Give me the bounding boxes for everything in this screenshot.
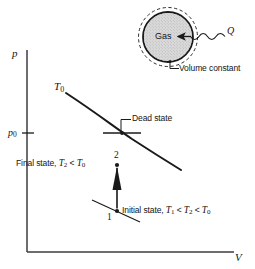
p-axis-label: p — [12, 48, 18, 59]
final-state-prefix: Final state, — [16, 158, 59, 168]
isotherm-T0-label: T0 — [54, 81, 64, 94]
dead-state-point — [120, 131, 124, 135]
heat-wavy-line — [191, 34, 226, 40]
initial-state-label: Initial state, T1 < T2 < T0 — [122, 206, 210, 216]
state-1-number-label: 1 — [107, 213, 112, 223]
initial-state-t0-sub: 0 — [207, 208, 210, 216]
process-arrowhead — [113, 167, 122, 191]
initial-state-relation-1: < — [174, 205, 183, 215]
gas-vessel-label: Gas — [155, 32, 172, 41]
final-state-label: Final state, T2 < T0 — [16, 159, 85, 169]
state-2-number-label: 2 — [114, 151, 119, 161]
heat-transfer-label: Q — [227, 26, 234, 36]
v-axis-label: V — [235, 252, 242, 263]
t0-subscript: 0 — [60, 85, 64, 94]
final-state-t0-sub: 0 — [82, 161, 85, 169]
volume-constant-label: Volume constant — [179, 64, 240, 73]
p0-subscript: 0 — [13, 130, 17, 139]
p0-tick-label: p0 — [8, 128, 17, 139]
state-2-point — [115, 163, 119, 167]
initial-state-relation-2: < — [192, 205, 201, 215]
figure-canvas — [0, 0, 255, 269]
dead-state-label: Dead state — [132, 114, 172, 123]
final-state-relation: < — [67, 158, 76, 168]
state-1-point — [115, 209, 119, 213]
initial-state-prefix: Initial state, — [122, 205, 166, 215]
pv-diagram-figure: p V p0 T0 Dead state Final state, T2 < T… — [0, 0, 255, 269]
